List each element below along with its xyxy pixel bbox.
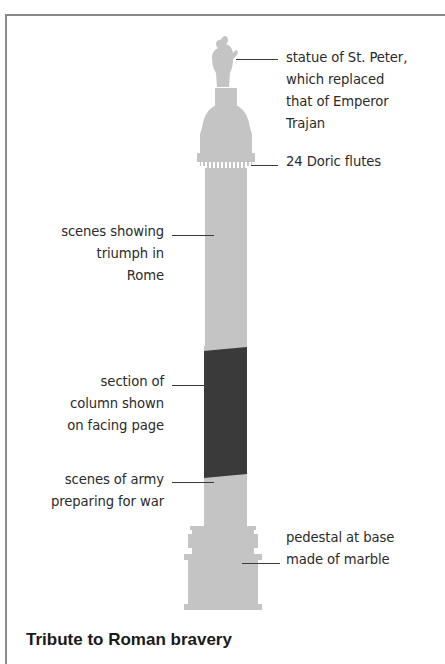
label-triumph: scenes showing triumph in Rome [61,221,164,287]
figure-caption: Tribute to Roman bravery [26,630,232,650]
statue-icon [212,36,238,87]
leader-line-army [172,482,214,483]
leader-line-flutes [251,165,278,166]
pedestal [184,526,262,610]
capital [197,153,255,162]
leader-line-triumph [172,235,214,236]
leader-line-section [172,385,214,386]
label-pedestal: pedestal at base made of marble [286,527,394,571]
column-top-drum [200,106,252,156]
column-illustration [184,36,262,610]
highlighted-section [204,347,247,478]
column-shaft [205,162,247,346]
label-army: scenes of army preparing for war [51,469,164,513]
leader-line-pedestal [242,563,280,564]
label-statue: statue of St. Peter, which replaced that… [286,47,407,135]
label-section: section of column shown on facing page [67,371,164,437]
label-flutes: 24 Doric flutes [286,151,381,173]
leader-line-statue [236,59,278,60]
